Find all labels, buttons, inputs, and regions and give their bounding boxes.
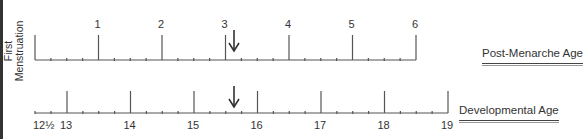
post-menarche-axis: [35, 35, 416, 61]
arrow-down-icon: [229, 86, 239, 107]
post-menarche-age-title: Post-Menarche Age: [482, 47, 583, 59]
underline: [482, 63, 583, 64]
underline: [459, 120, 559, 121]
developmental-axis: [35, 91, 448, 114]
underline: [482, 65, 583, 66]
tick-label: 3: [222, 18, 228, 30]
axis-title-text: Developmental Age: [459, 104, 559, 116]
tick-label-start: 12½: [33, 119, 54, 131]
tick-label: 16: [251, 119, 263, 131]
tick-label: 1: [95, 18, 101, 30]
developmental-age-title: Developmental Age: [459, 104, 559, 116]
developmental-tick-labels: 12½13141516171819: [33, 119, 453, 131]
tick-label: 19: [441, 119, 453, 131]
post-menarche-tick-labels: 123456: [95, 18, 419, 30]
tick-label: 4: [285, 18, 291, 30]
tick-label: 5: [349, 18, 355, 30]
arrow-down-icon: [229, 30, 239, 51]
tick-label: 13: [60, 119, 72, 131]
tick-label: 14: [124, 119, 136, 131]
tick-label: 18: [378, 119, 390, 131]
tick-label: 6: [412, 18, 418, 30]
tick-label: 2: [158, 18, 164, 30]
underline: [459, 122, 559, 123]
tick-label: 15: [187, 119, 199, 131]
tick-label: 17: [314, 119, 326, 131]
axis-title-text: Post-Menarche Age: [482, 47, 583, 59]
